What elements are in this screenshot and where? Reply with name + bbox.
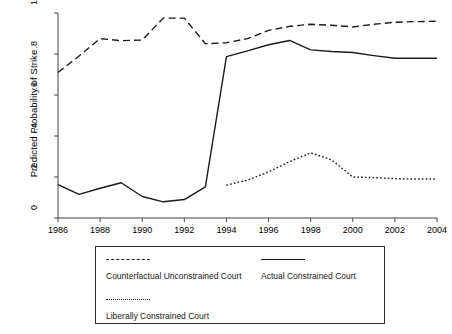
y-tick-label: .8	[29, 41, 39, 65]
series-line-2	[226, 153, 437, 185]
y-tick-label: .2	[29, 164, 39, 188]
legend-swatch-dotted-icon	[106, 299, 150, 300]
y-tick-label: 1	[29, 0, 39, 24]
x-tick-label: 1990	[122, 225, 162, 235]
legend-label: Counterfactual Unconstrained Court	[106, 271, 242, 281]
x-tick-label: 1988	[80, 225, 120, 235]
legend-label: Actual Constrained Court	[261, 271, 356, 281]
x-tick-label: 1998	[291, 225, 331, 235]
legend-swatch-solid-icon	[261, 259, 305, 260]
x-tick-label: 1994	[206, 225, 246, 235]
y-tick-label: .6	[29, 82, 39, 106]
chart-legend: Counterfactual Unconstrained CourtActual…	[95, 246, 385, 324]
x-tick-label: 1992	[164, 225, 204, 235]
y-tick-label: .4	[29, 123, 39, 147]
x-tick-label: 1986	[38, 225, 78, 235]
legend-label: Liberally Constrained Court	[106, 311, 209, 321]
x-tick-label: 1996	[249, 225, 289, 235]
x-tick-label: 2004	[417, 225, 452, 235]
legend-swatch-dashed-icon	[106, 259, 150, 260]
x-tick-label: 2002	[375, 225, 415, 235]
series-line-0	[58, 18, 437, 72]
x-tick-label: 2000	[333, 225, 373, 235]
